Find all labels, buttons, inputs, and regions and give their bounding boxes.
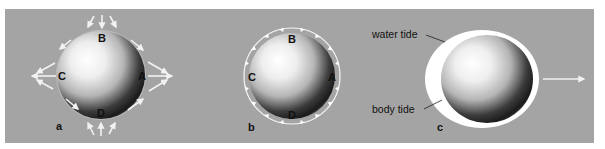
earth-sphere-a — [57, 31, 145, 119]
panel-label-c: c — [437, 121, 443, 133]
point-label-a: A — [138, 70, 146, 82]
arrow-icon — [335, 61, 339, 66]
panel-label-b: b — [248, 121, 255, 133]
panel-a: B C A D a — [32, 15, 172, 136]
arrow-icon — [335, 86, 339, 91]
arrow-icon — [37, 63, 55, 73]
panel-c: water tide body tide c — [371, 28, 584, 133]
point-label-c: C — [248, 71, 256, 83]
arrow-icon — [251, 102, 256, 106]
point-label-b: B — [288, 33, 296, 45]
point-label-c: C — [58, 70, 66, 82]
arrow-icon — [88, 123, 94, 135]
point-label-d: D — [97, 107, 105, 119]
arrow-icon — [328, 46, 333, 50]
arrow-icon — [109, 123, 115, 134]
earth-sphere-b — [249, 33, 335, 119]
arrow-icon — [328, 102, 333, 106]
arrow-icon — [37, 80, 53, 89]
diagram-canvas: B C A D a — [0, 0, 605, 149]
arrow-icon — [149, 80, 167, 91]
arrow-icon — [251, 46, 256, 50]
arrow-icon — [88, 16, 94, 27]
body-tide-label: body tide — [372, 103, 415, 115]
panel-label-a: a — [56, 120, 63, 132]
panel-b: B C A D b — [244, 28, 340, 133]
water-tide-label: water tide — [371, 28, 418, 40]
point-label-a: A — [328, 71, 336, 83]
tides-diagram: B C A D a — [0, 0, 605, 149]
point-label-b: B — [98, 32, 106, 44]
body-tide-sphere — [441, 35, 533, 123]
arrow-icon — [148, 62, 167, 73]
water-tide-leader-line — [426, 35, 445, 42]
arrow-icon — [110, 16, 116, 27]
point-label-d: D — [288, 109, 296, 121]
arrow-icon — [245, 86, 249, 91]
arrow-icon — [245, 61, 249, 66]
